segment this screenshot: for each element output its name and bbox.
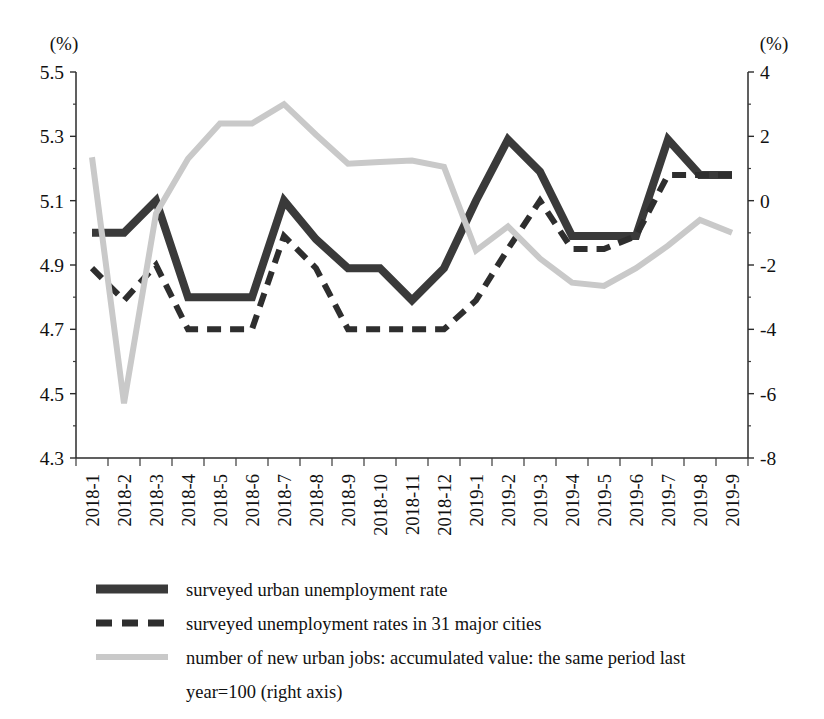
x-tick-label: 2019-6: [627, 474, 647, 526]
x-tick-label: 2018-2: [115, 474, 135, 526]
x-tick-label: 2019-9: [723, 474, 743, 526]
legend-label-0: surveyed urban unemployment rate: [186, 580, 447, 600]
x-tick-label: 2018-5: [211, 474, 231, 526]
right-tick-label: 0: [760, 191, 770, 212]
x-tick-label: 2019-2: [499, 474, 519, 526]
right-tick-label: -8: [760, 448, 776, 469]
right-tick-label: 4: [760, 62, 770, 83]
chart-legend: surveyed urban unemployment ratesurveyed…: [96, 580, 686, 703]
left-tick-label: 4.7: [40, 319, 65, 340]
x-tick-label: 2018-7: [275, 474, 295, 526]
x-tick-label: 2019-4: [563, 474, 583, 526]
x-tick-label: 2018-3: [147, 474, 167, 526]
x-tick-label: 2018-11: [403, 474, 423, 535]
right-tick-label: -6: [760, 384, 776, 405]
left-tick-label: 5.1: [40, 191, 64, 212]
left-tick-label: 5.5: [40, 62, 64, 83]
series-line-2: [92, 104, 732, 403]
x-tick-label: 2019-5: [595, 474, 615, 526]
right-tick-label: -2: [760, 255, 776, 276]
x-tick-label: 2018-4: [179, 474, 199, 526]
right-tick-label: 2: [760, 126, 770, 147]
left-tick-label: 4.3: [40, 448, 64, 469]
legend-label-2: number of new urban jobs: accumulated va…: [186, 648, 686, 668]
right-axis-unit-label: (%): [760, 33, 788, 55]
x-tick-label: 2019-3: [531, 474, 551, 526]
series-line-1: [92, 175, 732, 329]
x-tick-label: 2019-7: [659, 474, 679, 526]
chart-figure: 4.34.54.74.95.15.35.5-8-6-4-2024(%)(%) 2…: [0, 0, 824, 719]
x-tick-label: 2018-1: [83, 474, 103, 526]
x-tick-label: 2019-8: [691, 474, 711, 526]
x-tick-label: 2018-10: [371, 474, 391, 536]
x-tick-label: 2018-9: [339, 474, 359, 526]
left-axis-unit-label: (%): [50, 33, 78, 55]
left-tick-label: 4.5: [40, 384, 64, 405]
chart-series: [92, 104, 732, 403]
x-tick-label: 2018-12: [435, 474, 455, 536]
x-axis-labels: 2018-12018-22018-32018-42018-52018-62018…: [83, 474, 743, 536]
left-tick-label: 4.9: [40, 255, 64, 276]
legend-label-1: surveyed unemployment rates in 31 major …: [186, 614, 542, 634]
left-tick-label: 5.3: [40, 126, 64, 147]
x-tick-label: 2018-6: [243, 474, 263, 526]
x-tick-label: 2018-8: [307, 474, 327, 526]
x-tick-label: 2019-1: [467, 474, 487, 526]
right-tick-label: -4: [760, 319, 776, 340]
legend-label-2-line2: year=100 (right axis): [186, 682, 342, 703]
